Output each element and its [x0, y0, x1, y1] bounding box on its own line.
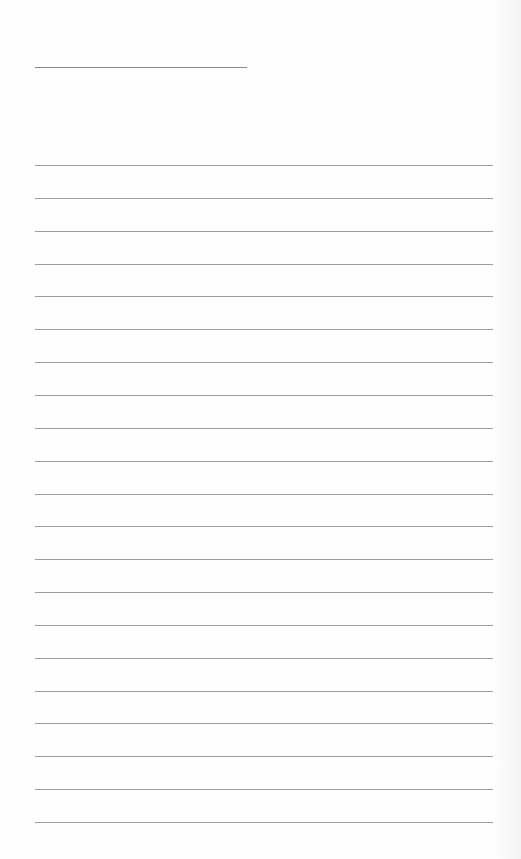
ruled-line [35, 691, 493, 692]
ruled-line [35, 296, 493, 297]
ruled-line [35, 592, 493, 593]
ruled-line [35, 461, 493, 462]
ruled-line [35, 231, 493, 232]
ruled-line [35, 165, 493, 166]
ruled-line [35, 428, 493, 429]
ruled-line [35, 362, 493, 363]
ruled-line [35, 756, 493, 757]
ruled-line [35, 625, 493, 626]
ruled-line [35, 494, 493, 495]
ruled-line [35, 559, 493, 560]
ruled-line [35, 264, 493, 265]
ruled-line [35, 789, 493, 790]
ruled-line [35, 526, 493, 527]
ruled-line [35, 395, 493, 396]
ruled-line [35, 723, 493, 724]
ruled-line [35, 198, 493, 199]
ruled-line [35, 329, 493, 330]
title-line [35, 67, 247, 68]
ruled-line [35, 658, 493, 659]
page-edge-shadow [493, 0, 521, 859]
notepaper-sheet [0, 0, 521, 859]
ruled-line [35, 822, 493, 823]
